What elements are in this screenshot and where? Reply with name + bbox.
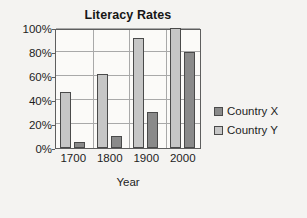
bar[interactable] — [111, 136, 122, 148]
legend-item[interactable]: Country X — [214, 103, 278, 119]
bar-group — [166, 30, 203, 148]
y-axis-tick-label: 0% — [0, 143, 52, 155]
bar[interactable] — [97, 74, 108, 148]
chart-legend: Country XCountry Y — [214, 103, 278, 141]
bar[interactable] — [133, 38, 144, 148]
bar[interactable] — [147, 112, 158, 148]
y-axis-tick-label: 60% — [0, 71, 52, 83]
y-axis-tick-mark — [52, 149, 55, 150]
legend-label: Country Y — [227, 124, 278, 136]
literacy-rates-chart: Literacy Rates 0%20%40%60%80%100% 170018… — [0, 0, 307, 218]
plot-area — [55, 29, 201, 149]
bar[interactable] — [60, 92, 71, 148]
bar[interactable] — [170, 28, 181, 148]
bar-group — [129, 30, 166, 148]
y-axis-tick-label: 80% — [0, 47, 52, 59]
legend-item[interactable]: Country Y — [214, 122, 278, 138]
y-axis-tick-label: 40% — [0, 95, 52, 107]
bar-group — [56, 30, 93, 148]
x-axis: 1700180019002000 — [55, 152, 201, 168]
bar[interactable] — [184, 52, 195, 148]
x-axis-title: Year — [55, 176, 201, 188]
x-axis-tick-label: 1800 — [97, 152, 123, 164]
bar-group — [93, 30, 130, 148]
bar[interactable] — [74, 142, 85, 148]
y-axis-tick-label: 100% — [0, 23, 52, 35]
legend-label: Country X — [227, 105, 278, 117]
legend-swatch-icon — [214, 107, 223, 116]
y-axis: 0%20%40%60%80%100% — [0, 29, 52, 149]
x-axis-tick-label: 1900 — [133, 152, 159, 164]
x-axis-tick-label: 1700 — [60, 152, 86, 164]
y-axis-tick-label: 20% — [0, 119, 52, 131]
x-axis-tick-label: 2000 — [170, 152, 196, 164]
chart-title: Literacy Rates — [55, 8, 201, 22]
legend-swatch-icon — [214, 126, 223, 135]
